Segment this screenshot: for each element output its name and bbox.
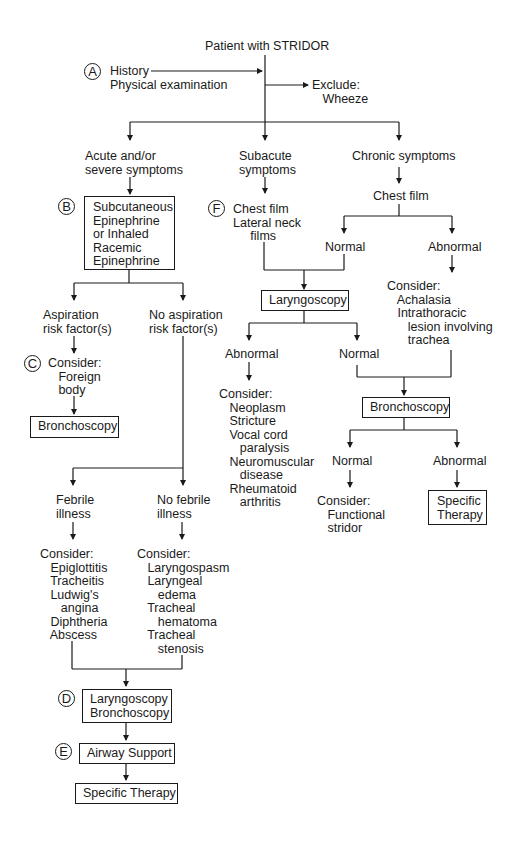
chronic-symptoms-label: Chronic symptoms [352,150,456,164]
epinephrine-treatment-box: Subcutaneous Epinephrine or Inhaled Race… [84,196,175,270]
specific-therapy-box-chronic: Specific Therapy [428,490,487,525]
laryngoscopy-abnormal-label: Abnormal [225,348,279,362]
febrile-illness-label: Febrile illness [56,494,94,521]
chest-lateral-neck-films: Chest film Lateral neck films [233,203,301,244]
stridor-flowchart: Patient with STRIDOR A History Physical … [0,0,522,843]
step-b-marker: B [58,198,75,215]
exclude-wheeze-label: Exclude: Wheeze [312,79,368,106]
no-febrile-consider-list: Consider: Laryngospasm Laryngeal edema T… [137,548,229,656]
airway-support-box: Airway Support [79,743,175,764]
laryngoscopy-bronchoscopy-box: Laryngoscopy Bronchoscopy [82,689,172,723]
bronchoscopy-box-chronic: Bronchoscopy [362,397,450,418]
no-febrile-illness-label: No febrile illness [157,494,211,521]
febrile-consider-list: Consider: Epiglottitis Tracheitis Ludwig… [40,548,107,643]
bronchoscopy-abnormal-label: Abnormal [433,455,487,469]
specific-therapy-box-acute: Specific Therapy [75,783,178,804]
bronchoscopy-box-acute: Bronchoscopy [30,416,119,438]
chest-film-label: Chest film [373,190,429,204]
bronchoscopy-normal-label: Normal [332,455,372,469]
no-aspiration-risk-label: No aspiration risk factor(s) [149,309,223,336]
history-exam-label: History Physical examination [110,65,227,92]
chronic-normal-label: Normal [325,241,365,255]
step-f-marker: F [208,200,225,217]
acute-symptoms-label: Acute and/or severe symptoms [85,150,183,177]
step-d-marker: D [58,690,75,707]
achalasia-consider-list: Consider: Achalasia Intrathoracic lesion… [387,280,493,348]
neoplasm-consider-list: Consider: Neoplasm Stricture Vocal cord … [219,388,314,510]
subacute-symptoms-label: Subacute symptoms [239,150,296,177]
step-c-marker: C [24,355,41,372]
consider-foreign-body: Consider: Foreign body [48,357,102,398]
laryngoscopy-box: Laryngoscopy [261,290,349,311]
aspiration-risk-label: Aspiration risk factor(s) [43,309,112,336]
step-a-marker: A [84,63,101,80]
laryngoscopy-normal-label: Normal [339,348,379,362]
title-patient-with-stridor: Patient with STRIDOR [205,40,325,54]
chronic-abnormal-label: Abnormal [428,241,482,255]
step-e-marker: E [55,743,72,760]
functional-stridor-consider: Consider: Functional stridor [317,495,385,536]
